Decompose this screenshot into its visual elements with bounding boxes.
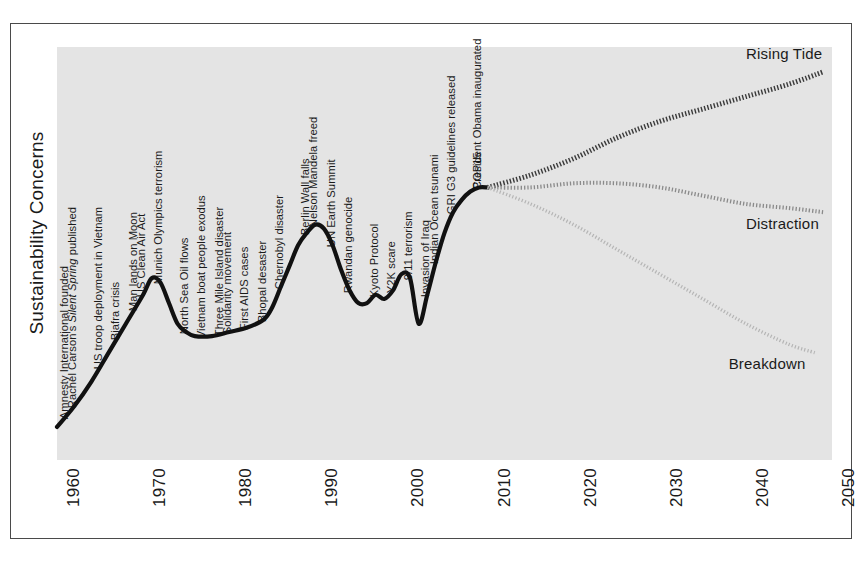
series-historical — [57, 187, 488, 427]
series-distraction — [488, 183, 824, 212]
series-breakdown — [488, 187, 815, 352]
figure-root: Sustainability Concerns 1960197019801990… — [0, 0, 868, 562]
series-rising-tide — [488, 72, 824, 188]
series-layer — [57, 72, 823, 427]
chart-lines — [0, 0, 868, 562]
